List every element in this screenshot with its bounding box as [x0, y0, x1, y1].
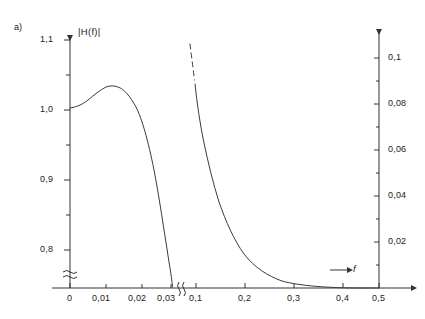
x-axis-name: f	[353, 263, 356, 274]
x-axis	[52, 283, 412, 288]
x-axis-tick-label: 0,5	[372, 293, 385, 303]
right-axis-tick-label: 0,04	[388, 190, 406, 200]
right-y-axis	[374, 30, 379, 288]
panel-label: a)	[14, 22, 22, 32]
x-axis-break-symbol	[178, 282, 186, 296]
x-axis-tick-label: 0,02	[128, 293, 146, 303]
curve-title: |H(f)|	[78, 26, 101, 37]
x-axis-tick-label: 0	[67, 293, 72, 303]
x-axis-tick-label: 0,2	[238, 293, 251, 303]
x-axis-tick-label: 0,03	[157, 293, 175, 303]
right-axis-tick-label: 0,02	[388, 236, 406, 246]
right-axis-tick-label: 0,1	[388, 52, 401, 62]
figure-magnitude-response: a) |H(f)| f 1,1 1,0 0,9 0,8 0,1 0,08 0,0…	[0, 0, 425, 319]
left-axis-tick-label: 0,9	[40, 174, 53, 184]
left-axis-tick-label: 0,8	[40, 244, 53, 254]
plot-svg	[0, 0, 425, 319]
x-axis-tick-label: 0,1	[189, 293, 202, 303]
right-axis-tick-label: 0,08	[388, 98, 406, 108]
x-axis-tick-label: 0,01	[92, 293, 110, 303]
x-axis-tick-label: 0,4	[336, 293, 349, 303]
x-axis-tick-label: 0,3	[287, 293, 300, 303]
curve-left-passband	[70, 86, 173, 287]
curve-right-dashed-head	[190, 44, 195, 80]
left-axis-tick-label: 1,1	[40, 34, 53, 44]
left-axis-tick-label: 1,0	[40, 104, 53, 114]
left-y-axis	[64, 36, 70, 288]
curve-right-stopband	[195, 84, 379, 288]
right-axis-tick-label: 0,06	[388, 144, 406, 154]
